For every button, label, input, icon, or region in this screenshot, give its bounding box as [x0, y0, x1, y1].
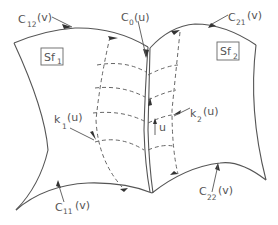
svg-text:(v): (v) [37, 11, 52, 24]
surface-diagram: Sf 1 Sf 2 C 12 (v) C 0 (u) C 21 (v) k 1 … [0, 0, 278, 225]
dashed-curves-left [93, 37, 146, 187]
svg-text:2: 2 [197, 115, 202, 124]
label-c21: C 21 (v) [228, 9, 262, 27]
svg-text:(v): (v) [247, 9, 262, 22]
svg-text:11: 11 [63, 207, 73, 216]
svg-text:k: k [54, 113, 61, 126]
svg-text:(v): (v) [75, 199, 90, 212]
label-u: u [153, 118, 166, 135]
svg-text:C: C [121, 11, 129, 24]
sf2-main: Sf [220, 45, 232, 58]
svg-text:21: 21 [236, 18, 246, 27]
svg-text:C: C [199, 185, 207, 198]
svg-text:k: k [190, 107, 197, 120]
label-c11: C 11 (v) [55, 199, 90, 216]
sf1-main: Sf [44, 51, 56, 64]
label-c12: C 12 (v) [18, 11, 52, 29]
svg-text:(u): (u) [67, 111, 83, 124]
patch-sf1-outline [14, 28, 152, 210]
svg-text:(u): (u) [203, 105, 219, 118]
label-sf1: Sf 1 [41, 48, 63, 66]
sf2-sub: 2 [233, 52, 238, 61]
svg-text:12: 12 [27, 20, 37, 29]
label-k2: k 2 (u) [190, 105, 219, 124]
common-curve-c0 [144, 47, 153, 193]
svg-text:C: C [228, 11, 236, 24]
label-k1: k 1 (u) [54, 111, 83, 131]
label-c0: C 0 (u) [121, 11, 150, 27]
svg-text:22: 22 [207, 193, 217, 202]
dashed-curves-right [148, 32, 180, 174]
svg-text:C: C [55, 201, 63, 214]
label-c22: C 22 (v) [199, 184, 233, 202]
svg-text:u: u [159, 121, 166, 134]
svg-text:(u): (u) [134, 11, 150, 24]
label-sf2: Sf 2 [217, 42, 239, 61]
svg-text:C: C [18, 13, 26, 26]
svg-text:(v): (v) [218, 184, 233, 197]
sf1-sub: 1 [57, 57, 62, 66]
